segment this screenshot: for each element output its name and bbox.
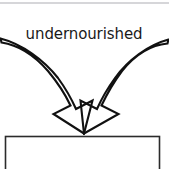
right-inflow-arrow [81, 40, 169, 134]
population-box [6, 137, 160, 170]
undernourished-inflow-diagram: undernourished [0, 0, 169, 169]
left-inflow-arrow [1, 39, 93, 134]
diagram-label: undernourished [26, 25, 143, 43]
diagram-canvas: undernourished [0, 0, 169, 169]
